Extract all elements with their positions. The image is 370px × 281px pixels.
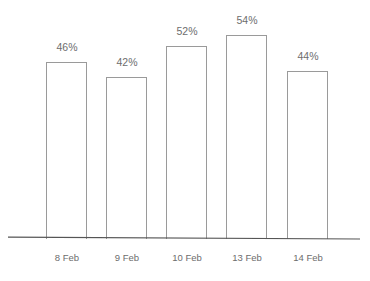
bar-value-label: 52% — [156, 25, 218, 37]
axis-stroke — [8, 237, 360, 239]
bar-value-label: 44% — [277, 50, 339, 62]
category-label: 13 Feb — [216, 252, 278, 263]
bar-value-label: 42% — [96, 56, 158, 68]
bar[interactable] — [106, 77, 147, 239]
category-label: 8 Feb — [36, 252, 98, 263]
x-axis-svg — [8, 236, 360, 240]
x-axis-line — [8, 236, 360, 240]
bar[interactable] — [46, 62, 87, 239]
bar[interactable] — [226, 35, 267, 239]
category-label: 14 Feb — [277, 252, 339, 263]
bar-value-label: 54% — [216, 14, 278, 26]
category-label: 9 Feb — [96, 252, 158, 263]
category-label: 10 Feb — [156, 252, 218, 263]
bar[interactable] — [166, 46, 207, 239]
bar-chart: 46% 8 Feb 42% 9 Feb 52% 10 Feb 54% 13 Fe… — [0, 0, 370, 281]
bar[interactable] — [287, 71, 328, 239]
bar-value-label: 46% — [36, 41, 98, 53]
